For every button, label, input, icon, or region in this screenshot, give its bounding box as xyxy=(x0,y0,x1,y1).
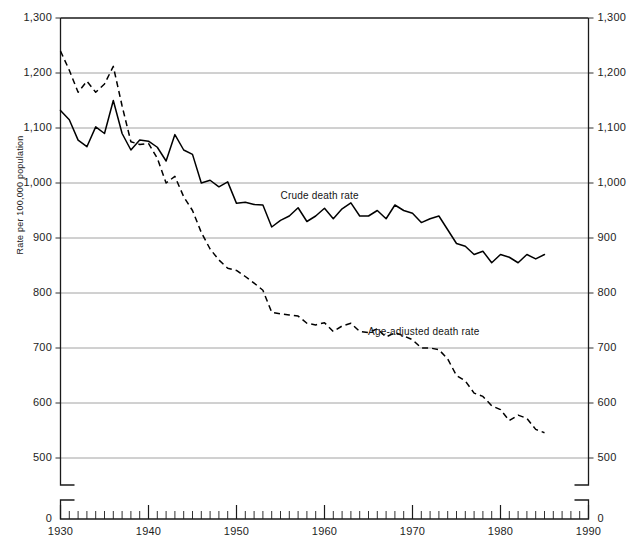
y-tick-label-left-1200: 1,200 xyxy=(10,66,52,78)
x-tick-label-1940: 1940 xyxy=(129,525,169,537)
y-tick-label-left-1000: 1,000 xyxy=(10,176,52,188)
y-tick-label-right-1100: 1,100 xyxy=(598,121,631,133)
y-tick-label-right-600: 600 xyxy=(598,396,631,408)
y-tick-label-left-1300: 1,300 xyxy=(10,11,52,23)
y-tick-label-right-800: 800 xyxy=(598,286,631,298)
y-tick-label-right-1300: 1,300 xyxy=(598,11,631,23)
y-tick-label-left-0: 0 xyxy=(10,512,52,524)
y-tick-label-right-1000: 1,000 xyxy=(598,176,631,188)
x-tick-label-1930: 1930 xyxy=(41,525,81,537)
x-tick-label-1960: 1960 xyxy=(305,525,345,537)
y-tick-label-left-1100: 1,100 xyxy=(10,121,52,133)
y-tick-label-left-900: 900 xyxy=(10,231,52,243)
series-line-age-adjusted-death-rate xyxy=(61,51,545,433)
y-tick-label-left-800: 800 xyxy=(10,286,52,298)
series-label-age-adjusted-death-rate: Age-adjusted death rate xyxy=(368,326,479,337)
axis-right-upper xyxy=(575,18,589,485)
x-tick-label-1950: 1950 xyxy=(217,525,257,537)
x-tick-label-1980: 1980 xyxy=(481,525,521,537)
y-tick-label-right-700: 700 xyxy=(598,341,631,353)
x-tick-label-1990: 1990 xyxy=(569,525,609,537)
axis-left-upper xyxy=(61,18,75,485)
y-tick-label-left-600: 600 xyxy=(10,396,52,408)
series-line-crude-death-rate xyxy=(61,101,545,263)
y-tick-label-right-900: 900 xyxy=(598,231,631,243)
y-tick-label-left-500: 500 xyxy=(10,451,52,463)
y-tick-label-right-0: 0 xyxy=(598,512,631,524)
y-tick-label-right-1200: 1,200 xyxy=(598,66,631,78)
series-label-crude-death-rate: Crude death rate xyxy=(281,190,359,201)
y-tick-label-right-500: 500 xyxy=(598,451,631,463)
x-tick-label-1970: 1970 xyxy=(393,525,433,537)
y-tick-label-left-700: 700 xyxy=(10,341,52,353)
